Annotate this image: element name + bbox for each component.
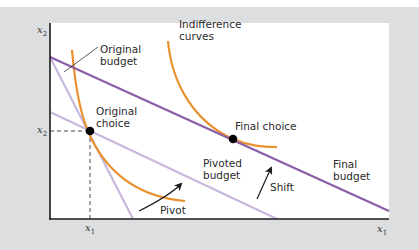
- x2-tick-label: x2: [37, 124, 47, 138]
- pivoted-budget-label: Pivoted budget: [203, 158, 242, 181]
- shift-arrow-icon: [257, 168, 271, 199]
- x-axis-label: x1: [377, 223, 387, 237]
- final-budget-line: [50, 57, 389, 211]
- y-axis-label: x2: [37, 24, 47, 38]
- original-budget-leader-line: [64, 47, 98, 72]
- original-choice-label: Original choice: [96, 106, 137, 129]
- final-budget-label: Final budget: [333, 159, 370, 182]
- final-choice-label: Final choice: [235, 121, 297, 133]
- shift-label: Shift: [270, 182, 294, 194]
- original-budget-label: Original budget: [100, 44, 141, 67]
- original-choice-point: [86, 127, 95, 136]
- indifference-curves-label: Indifference curves: [179, 19, 241, 42]
- x1-tick-label: x1: [85, 222, 95, 236]
- pivot-label: Pivot: [160, 205, 186, 217]
- final-choice-point: [229, 135, 238, 144]
